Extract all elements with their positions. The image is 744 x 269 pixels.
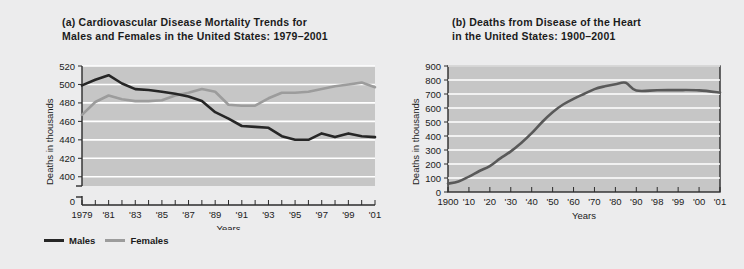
svg-text:'81: '81 [102,209,114,220]
svg-text:1900: 1900 [437,196,458,207]
panel-a-plot: 04004204404604805005201979'81'83'85'87'8… [0,0,390,230]
svg-text:520: 520 [59,61,75,72]
svg-text:'10: '10 [463,196,475,207]
legend-label-females: Females [130,236,168,246]
svg-text:500: 500 [59,79,75,90]
figure-container: (a) Cardiovascular Disease Mortality Tre… [0,0,744,269]
svg-text:'95: '95 [289,209,301,220]
svg-text:480: 480 [59,97,75,108]
svg-text:300: 300 [425,145,441,156]
svg-text:800: 800 [425,75,441,86]
svg-text:'60: '60 [567,196,579,207]
svg-text:'40: '40 [525,196,537,207]
svg-text:'01: '01 [369,209,381,220]
chart-panel-a: (a) Cardiovascular Disease Mortality Tre… [0,0,390,269]
svg-text:'93: '93 [262,209,274,220]
svg-text:900: 900 [425,61,441,72]
svg-text:'70: '70 [588,196,600,207]
svg-text:'50: '50 [546,196,558,207]
svg-text:'89: '89 [209,209,221,220]
svg-text:440: 440 [59,134,75,145]
svg-text:'20: '20 [484,196,496,207]
panel-b-plot: 01002003004005006007008009001900'10'20'3… [390,0,744,230]
svg-text:'87: '87 [182,209,194,220]
legend: Males Females [44,236,168,246]
svg-text:100: 100 [425,173,441,184]
svg-text:'90: '90 [630,196,642,207]
svg-text:700: 700 [425,89,441,100]
svg-text:460: 460 [59,116,75,127]
svg-text:500: 500 [425,117,441,128]
svg-text:'91: '91 [236,209,248,220]
legend-label-males: Males [69,236,95,246]
svg-text:'30: '30 [505,196,517,207]
legend-entry-males: Males [44,236,95,246]
svg-text:'99: '99 [342,209,354,220]
svg-text:400: 400 [59,171,75,182]
svg-text:0: 0 [70,196,75,207]
svg-text:200: 200 [425,159,441,170]
svg-text:'98: '98 [651,196,663,207]
legend-swatch-males [44,239,64,242]
svg-text:'97: '97 [316,209,328,220]
svg-text:1979: 1979 [71,209,92,220]
svg-text:Years: Years [572,210,596,221]
svg-text:'00: '00 [693,196,705,207]
svg-text:600: 600 [425,103,441,114]
svg-text:'85: '85 [156,209,168,220]
legend-swatch-females [105,239,125,242]
svg-text:420: 420 [59,153,75,164]
svg-text:'01: '01 [714,196,726,207]
svg-text:'80: '80 [609,196,621,207]
svg-text:400: 400 [425,131,441,142]
chart-panel-b: (b) Deaths from Disease of the Heart in … [390,0,744,269]
legend-entry-females: Females [105,236,168,246]
svg-text:'99: '99 [672,196,684,207]
svg-text:Years: Years [217,223,241,230]
svg-text:'83: '83 [129,209,141,220]
